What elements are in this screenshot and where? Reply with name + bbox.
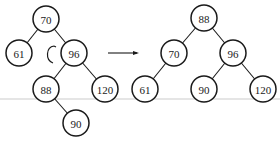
tree-rotation-diagram: 70619688120908870966190120 [0, 0, 280, 141]
after-node-70: 70 [161, 40, 187, 66]
after-node-96: 96 [220, 40, 246, 66]
node-label: 88 [199, 13, 211, 25]
node-label: 88 [41, 84, 53, 96]
node-label: 90 [199, 84, 211, 96]
node-label: 61 [140, 84, 151, 96]
before-node-70: 70 [33, 6, 59, 32]
node-label: 90 [71, 118, 83, 130]
before-node-61: 61 [6, 40, 32, 66]
after-node-90: 90 [191, 76, 217, 102]
node-label: 120 [97, 84, 114, 96]
rotation-arc-icon [47, 46, 56, 63]
after-node-88: 88 [191, 5, 217, 31]
edges-layer [19, 18, 263, 123]
arrow-head-icon [133, 51, 139, 55]
after-node-120: 120 [250, 76, 276, 102]
node-label: 70 [169, 48, 181, 60]
node-label: 96 [228, 48, 240, 60]
node-label: 70 [41, 14, 53, 26]
node-label: 120 [255, 84, 272, 96]
before-node-96: 96 [61, 40, 87, 66]
transition-arrow [108, 51, 139, 55]
nodes-layer: 70619688120908870966190120 [6, 5, 276, 136]
before-node-88: 88 [33, 76, 59, 102]
after-node-61: 61 [132, 76, 158, 102]
node-label: 96 [69, 48, 81, 60]
before-node-90: 90 [63, 110, 89, 136]
before-node-120: 120 [92, 76, 118, 102]
node-label: 61 [14, 48, 25, 60]
